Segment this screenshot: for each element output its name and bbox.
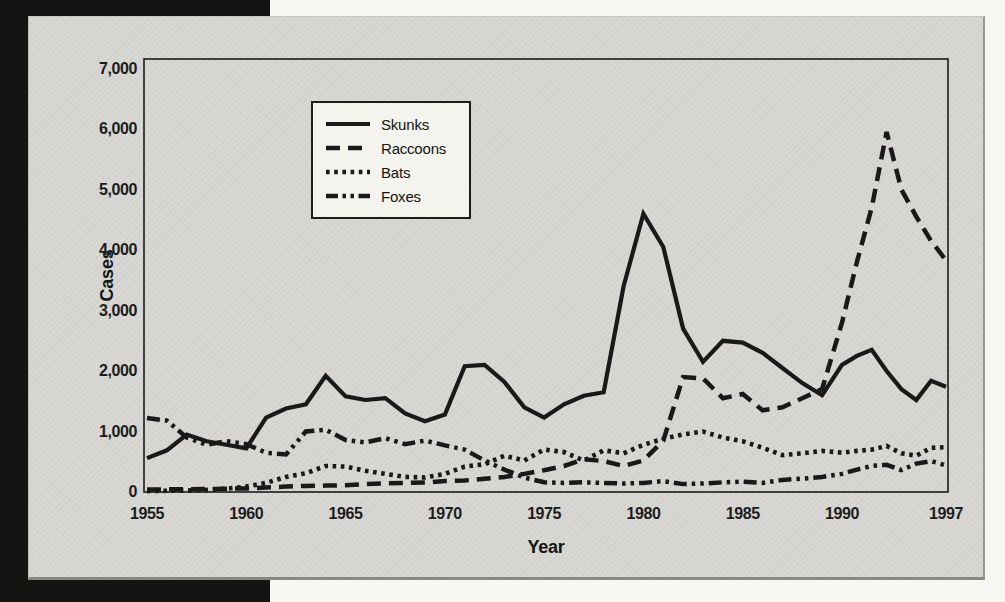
x-tick-label: 1990 [812,505,872,523]
x-tick-label: 1955 [117,505,177,523]
dotted-line-icon [325,166,371,178]
y-tick-label: 5,000 [65,181,137,199]
y-tick-label: 7,000 [65,60,137,78]
legend-label: Skunks [381,116,429,133]
x-tick-label: 1975 [514,505,574,523]
dash-dot-dot-line-icon [325,190,371,202]
legend-item-raccoons: Raccoons [325,136,457,160]
legend-item-skunks: Skunks [325,112,457,136]
series-line-raccoons [147,132,946,490]
y-tick-label: 4,000 [65,241,137,259]
legend-label: Raccoons [381,140,446,157]
solid-line-icon [325,118,371,130]
chart-svg [29,17,986,581]
dashed-line-icon [325,142,371,154]
legend-item-bats: Bats [325,160,457,184]
x-tick-label: 1970 [415,505,475,523]
y-tick-label: 3,000 [65,302,137,320]
x-tick-label: 1997 [916,505,976,523]
x-tick-label: 1980 [613,505,673,523]
legend-label: Foxes [381,188,421,205]
chart-panel: Cases Year Skunks Raccoons Bats Foxes 01… [28,16,985,580]
series-line-skunks [147,214,946,458]
y-tick-label: 0 [65,483,137,501]
x-axis-title: Year [496,537,596,558]
legend-label: Bats [381,164,410,181]
page: { "axis_titles": { "y": "Cases", "x": "Y… [0,0,1005,602]
x-tick-label: 1965 [316,505,376,523]
plot-frame [144,59,948,492]
y-tick-label: 1,000 [65,423,137,441]
x-tick-label: 1960 [216,505,276,523]
legend: Skunks Raccoons Bats Foxes [311,101,471,219]
y-tick-label: 2,000 [65,362,137,380]
y-tick-label: 6,000 [65,120,137,138]
legend-item-foxes: Foxes [325,184,457,208]
x-tick-label: 1985 [713,505,773,523]
